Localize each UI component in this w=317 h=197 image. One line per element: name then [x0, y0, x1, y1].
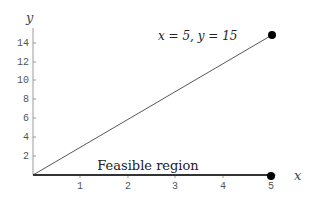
- feasible-region-chart: 2 4 6 8 10 12 14 1 2 3 4 5 y x x = 5, y …: [0, 0, 317, 197]
- y-tick-14: 14: [17, 38, 29, 49]
- x-tick-labels: 1 2 3 4 5: [77, 181, 274, 192]
- ray-line: [33, 35, 272, 175]
- region-annotation: Feasible region: [97, 158, 199, 173]
- x-tick-5: 5: [268, 181, 274, 192]
- x-tick-4: 4: [220, 181, 226, 192]
- lower-point: [267, 172, 275, 180]
- y-tick-8: 8: [23, 94, 29, 105]
- x-tick-2: 2: [125, 181, 131, 192]
- y-tick-labels: 2 4 6 8 10 12 14: [17, 38, 29, 162]
- y-tick-10: 10: [17, 75, 29, 86]
- x-axis-label: x: [294, 168, 302, 183]
- x-tick-3: 3: [172, 181, 178, 192]
- point-annotation: x = 5, y = 15: [158, 29, 237, 43]
- y-tick-6: 6: [23, 113, 29, 124]
- y-tick-2: 2: [23, 151, 29, 162]
- x-tick-1: 1: [77, 181, 83, 192]
- y-tick-4: 4: [23, 132, 29, 143]
- y-axis-label: y: [25, 10, 34, 25]
- y-tick-12: 12: [17, 57, 29, 68]
- upper-point: [268, 31, 276, 39]
